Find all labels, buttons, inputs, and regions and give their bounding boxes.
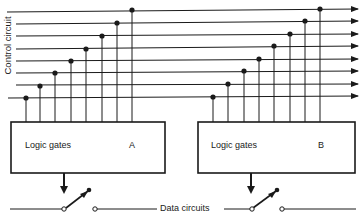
box-a-tag: A [129, 140, 135, 150]
taps-a [26, 10, 132, 122]
tap-dots-b [210, 6, 322, 99]
circuit-diagram [0, 0, 361, 220]
box-b-title: Logic gates [211, 140, 257, 150]
taps-b [213, 9, 320, 122]
box-b-tag: B [318, 140, 324, 150]
data-circuits-label: Data circuits [160, 203, 210, 213]
tap-dots-a [23, 7, 134, 100]
control-arrows [64, 173, 251, 188]
box-a-title: Logic gates [25, 140, 71, 150]
control-circuit-label: Control circuit [2, 25, 13, 75]
